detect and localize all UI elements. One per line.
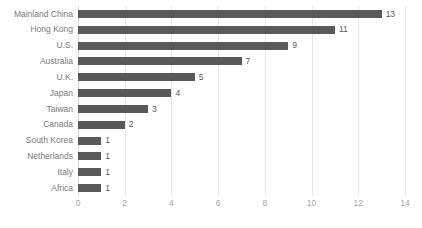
category-label: Hong Kong bbox=[30, 22, 73, 38]
bar-value-label: 1 bbox=[105, 184, 110, 193]
bar-value-label: 2 bbox=[129, 120, 134, 129]
tick-label-0: 0 bbox=[76, 199, 81, 208]
category-label: Italy bbox=[57, 164, 73, 180]
plot-area: 13119754321111 bbox=[78, 6, 405, 196]
category-label: Taiwan bbox=[47, 101, 73, 117]
bar-row: 1 bbox=[78, 133, 405, 149]
tick-label-12: 12 bbox=[354, 199, 363, 208]
category-label: Netherlands bbox=[27, 149, 73, 165]
bar bbox=[78, 184, 101, 192]
bar-row: 2 bbox=[78, 117, 405, 133]
bar-row: 1 bbox=[78, 164, 405, 180]
bar bbox=[78, 57, 242, 65]
bar bbox=[78, 168, 101, 176]
bar-row: 1 bbox=[78, 180, 405, 196]
gridline-14 bbox=[405, 6, 406, 196]
bar bbox=[78, 137, 101, 145]
tick-label-10: 10 bbox=[307, 199, 316, 208]
bar-row: 3 bbox=[78, 101, 405, 117]
bar-value-label: 4 bbox=[175, 89, 180, 98]
bar-value-label: 7 bbox=[246, 57, 251, 66]
bar bbox=[78, 121, 125, 129]
category-label: Africa bbox=[51, 180, 73, 196]
bar-row: 5 bbox=[78, 69, 405, 85]
bar bbox=[78, 152, 101, 160]
category-label: Mainland China bbox=[14, 6, 73, 22]
tick-label-2: 2 bbox=[122, 199, 127, 208]
tick-label-8: 8 bbox=[262, 199, 267, 208]
bar bbox=[78, 10, 382, 18]
bar-value-label: 5 bbox=[199, 73, 204, 82]
bar-value-label: 13 bbox=[386, 10, 395, 19]
category-label: U.S. bbox=[56, 38, 73, 54]
bar-row: 13 bbox=[78, 6, 405, 22]
bar-value-label: 1 bbox=[105, 168, 110, 177]
bar bbox=[78, 26, 335, 34]
bar-value-label: 3 bbox=[152, 105, 157, 114]
bar-value-label: 11 bbox=[339, 25, 348, 34]
bar-row: 7 bbox=[78, 54, 405, 70]
bar-row: 4 bbox=[78, 85, 405, 101]
category-label: U.K. bbox=[56, 69, 73, 85]
bar bbox=[78, 42, 288, 50]
category-axis-labels: Mainland ChinaHong KongU.S.AustraliaU.K.… bbox=[0, 6, 73, 196]
bar bbox=[78, 105, 148, 113]
bar bbox=[78, 73, 195, 81]
bar bbox=[78, 89, 171, 97]
bar-value-label: 9 bbox=[292, 41, 297, 50]
bar-chart: Mainland ChinaHong KongU.S.AustraliaU.K.… bbox=[0, 0, 422, 228]
tick-label-6: 6 bbox=[216, 199, 221, 208]
tick-label-14: 14 bbox=[400, 199, 409, 208]
value-axis-tick-labels: 02468101214 bbox=[78, 199, 405, 213]
bar-value-label: 1 bbox=[105, 136, 110, 145]
category-label: Australia bbox=[40, 54, 73, 70]
bar-rows: 13119754321111 bbox=[78, 6, 405, 196]
category-label: Canada bbox=[43, 117, 73, 133]
bar-row: 11 bbox=[78, 22, 405, 38]
category-label: South Korea bbox=[26, 133, 73, 149]
category-label: Japan bbox=[50, 85, 73, 101]
bar-value-label: 1 bbox=[105, 152, 110, 161]
tick-label-4: 4 bbox=[169, 199, 174, 208]
bar-row: 9 bbox=[78, 38, 405, 54]
bar-row: 1 bbox=[78, 149, 405, 165]
